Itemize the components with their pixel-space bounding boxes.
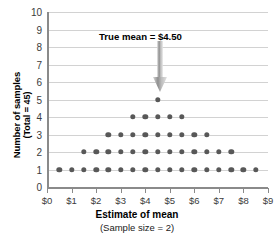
y-tick-label: 7 bbox=[36, 59, 42, 70]
data-point bbox=[228, 149, 233, 154]
data-point bbox=[204, 167, 209, 172]
y-tick-label: 1 bbox=[36, 164, 42, 175]
y-tick-label: 6 bbox=[36, 77, 42, 88]
y-tick-label: 10 bbox=[31, 7, 42, 18]
data-point bbox=[179, 149, 184, 154]
data-point bbox=[216, 167, 221, 172]
data-point bbox=[167, 149, 172, 154]
x-tick-label: $8 bbox=[238, 195, 249, 206]
x-tick-mark bbox=[194, 188, 195, 193]
data-point bbox=[118, 149, 123, 154]
data-point bbox=[143, 114, 148, 119]
data-point bbox=[167, 167, 172, 172]
gridline bbox=[47, 12, 268, 13]
y-tick-label: 3 bbox=[36, 129, 42, 140]
data-point bbox=[179, 132, 184, 137]
x-tick-label: $5 bbox=[164, 195, 175, 206]
data-point bbox=[204, 149, 209, 154]
data-point bbox=[155, 97, 160, 102]
x-axis-title: Estimate of mean (Sample size = 2) bbox=[0, 208, 274, 234]
true-mean-arrow-icon bbox=[152, 41, 168, 93]
data-point bbox=[155, 167, 160, 172]
data-point bbox=[130, 149, 135, 154]
data-point bbox=[69, 167, 74, 172]
data-point bbox=[143, 132, 148, 137]
data-point bbox=[81, 149, 86, 154]
y-tick-label: 0 bbox=[36, 182, 42, 193]
data-point bbox=[253, 167, 258, 172]
data-point bbox=[192, 167, 197, 172]
y-axis-line bbox=[47, 12, 49, 188]
x-tick-mark bbox=[72, 188, 73, 193]
y-tick-label: 2 bbox=[36, 147, 42, 158]
data-point bbox=[216, 149, 221, 154]
x-tick-mark bbox=[96, 188, 97, 193]
x-tick-label: $0 bbox=[42, 195, 53, 206]
data-point bbox=[143, 167, 148, 172]
y-tick-label: 9 bbox=[36, 24, 42, 35]
data-point bbox=[192, 149, 197, 154]
data-point bbox=[106, 149, 111, 154]
data-point bbox=[241, 167, 246, 172]
data-point bbox=[155, 132, 160, 137]
x-tick-mark bbox=[121, 188, 122, 193]
data-point bbox=[106, 132, 111, 137]
data-point bbox=[192, 132, 197, 137]
x-tick-label: $7 bbox=[214, 195, 225, 206]
x-tick-mark bbox=[145, 188, 146, 193]
y-tick-label: 4 bbox=[36, 112, 42, 123]
x-tick-mark bbox=[47, 188, 48, 193]
data-point bbox=[155, 114, 160, 119]
data-point bbox=[93, 149, 98, 154]
y-tick-label: 8 bbox=[36, 42, 42, 53]
data-point bbox=[118, 132, 123, 137]
data-point bbox=[81, 167, 86, 172]
data-point bbox=[179, 167, 184, 172]
x-tick-mark bbox=[219, 188, 220, 193]
x-tick-mark bbox=[268, 188, 269, 193]
x-tick-mark bbox=[243, 188, 244, 193]
data-point bbox=[93, 167, 98, 172]
x-tick-label: $2 bbox=[91, 195, 102, 206]
data-point bbox=[143, 149, 148, 154]
y-axis-title-main: Number of samples bbox=[11, 40, 22, 190]
y-tick-label: 5 bbox=[36, 94, 42, 105]
data-point bbox=[179, 114, 184, 119]
x-tick-label: $9 bbox=[263, 195, 274, 206]
data-point bbox=[228, 167, 233, 172]
dot-plot-figure: Number of samples (Total = 45) 012345678… bbox=[0, 0, 274, 242]
x-axis-title-sub: (Sample size = 2) bbox=[0, 221, 274, 234]
x-tick-mark bbox=[170, 188, 171, 193]
y-axis-title-sub: (Total = 45) bbox=[22, 40, 33, 190]
x-tick-label: $6 bbox=[189, 195, 200, 206]
data-point bbox=[106, 167, 111, 172]
x-axis-line bbox=[47, 187, 268, 189]
data-point bbox=[167, 114, 172, 119]
x-tick-label: $4 bbox=[140, 195, 151, 206]
data-point bbox=[155, 149, 160, 154]
data-point bbox=[118, 167, 123, 172]
data-point bbox=[204, 132, 209, 137]
x-axis-title-main: Estimate of mean bbox=[0, 208, 274, 221]
data-point bbox=[57, 167, 62, 172]
true-mean-annotation-label: True mean = $4.50 bbox=[99, 31, 182, 42]
data-point bbox=[130, 167, 135, 172]
x-tick-label: $1 bbox=[66, 195, 77, 206]
data-point bbox=[130, 132, 135, 137]
data-point bbox=[130, 114, 135, 119]
x-tick-label: $3 bbox=[115, 195, 126, 206]
data-point bbox=[167, 132, 172, 137]
